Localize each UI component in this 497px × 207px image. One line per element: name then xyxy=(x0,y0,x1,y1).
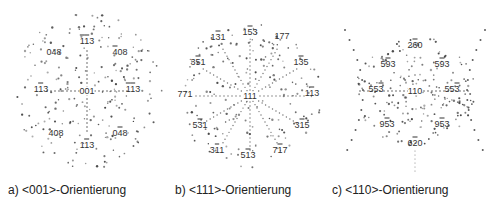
miller-index-label: 408 xyxy=(112,48,127,57)
miller-index-label: 593 xyxy=(380,60,395,69)
miller-index-label: 153 xyxy=(242,28,257,37)
caption-001-orientation: a) <001>-Orientierung xyxy=(8,183,126,197)
miller-index-label: 260 xyxy=(407,41,422,50)
miller-index-label: 131 xyxy=(210,33,225,42)
caption-110-orientation: c) <110>-Orientierung xyxy=(332,183,449,197)
miller-index-label: 048 xyxy=(112,129,127,138)
miller-index-label: 531 xyxy=(192,121,207,130)
miller-index-label: 513 xyxy=(240,151,255,160)
miller-index-label: 113 xyxy=(80,141,94,150)
miller-index-label: 620 xyxy=(407,139,422,148)
miller-index-label: 553 xyxy=(444,85,459,94)
pole-figure-001: 001113048408113113408048113 xyxy=(0,0,170,175)
miller-index-label: 113 xyxy=(126,85,140,94)
pole-center-label: 111 xyxy=(243,92,257,101)
miller-index-label: 113 xyxy=(305,89,319,98)
miller-index-label: 113 xyxy=(80,37,94,46)
miller-index-label: 351 xyxy=(190,58,205,67)
miller-index-label: 953 xyxy=(379,120,394,129)
pole-center-label: 110 xyxy=(408,87,422,96)
miller-index-label: 311 xyxy=(210,146,224,155)
miller-index-label: 553 xyxy=(368,85,383,94)
miller-index-label: 177 xyxy=(274,32,289,41)
miller-index-label: 048 xyxy=(46,48,61,57)
miller-index-label: 771 xyxy=(177,90,192,99)
miller-index-label: 315 xyxy=(294,121,309,130)
miller-index-label: 408 xyxy=(48,129,63,138)
caption-111-orientation: b) <111>-Orientierung xyxy=(175,183,291,197)
pole-figure-111: 111153131177351135771113531315311513717 xyxy=(160,0,330,175)
pole-center-label: 001 xyxy=(79,87,94,96)
miller-index-label: 953 xyxy=(434,120,449,129)
miller-index-label: 717 xyxy=(272,146,287,155)
miller-index-label: 135 xyxy=(293,58,308,67)
pole-figure-110: 110260593593553553953953620 xyxy=(320,0,497,175)
miller-index-label: 593 xyxy=(434,60,449,69)
miller-index-label: 113 xyxy=(34,85,48,94)
